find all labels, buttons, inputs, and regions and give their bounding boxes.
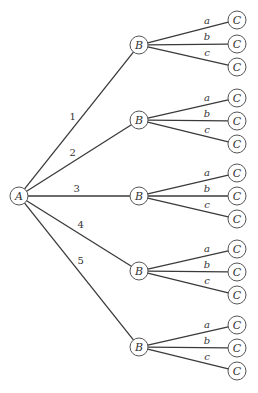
edge-b4-c1 — [148, 251, 228, 269]
edge-label-b5-c: c — [204, 351, 210, 362]
edge-label-b1-a: a — [204, 15, 210, 26]
edge-b4-c2 — [148, 271, 228, 272]
edge-b5-c1 — [148, 327, 228, 345]
node-c-3-1: C — [228, 164, 246, 182]
node-b5: B — [130, 338, 148, 356]
node-c-2-3: C — [228, 135, 246, 153]
node-c-2-3-label: C — [233, 138, 242, 151]
node-c-2-1-label: C — [233, 92, 242, 105]
edge-label-b1-c: c — [204, 47, 210, 58]
node-c-1-1-label: C — [233, 14, 242, 27]
edge-label-b3-c: c — [204, 199, 210, 210]
node-b4-label: B — [134, 265, 143, 278]
edge-label-b2-a: a — [204, 92, 210, 103]
edge-label-b3-a: a — [204, 167, 210, 178]
edge-label-4: 4 — [77, 219, 83, 230]
edge-b1-c1 — [148, 22, 229, 43]
edge-b4-c3 — [148, 273, 229, 293]
node-c-3-3: C — [228, 210, 246, 228]
root-node-a-label: A — [14, 190, 23, 203]
edge-label-2: 2 — [69, 147, 75, 158]
node-c-2-2-label: C — [233, 115, 242, 128]
edge-label-b3-b: b — [204, 183, 210, 194]
edge-b5-c3 — [148, 349, 229, 369]
node-c-5-1-label: C — [233, 319, 242, 332]
root-node-a: A — [10, 187, 28, 205]
node-b3-label: B — [134, 190, 143, 203]
edge-b3-c1 — [148, 175, 228, 194]
node-b2-label: B — [134, 114, 143, 127]
node-c-3-2: C — [228, 187, 246, 205]
edge-label-b5-b: b — [204, 335, 210, 346]
node-c-3-3-label: C — [233, 213, 242, 226]
node-c-5-1: C — [228, 316, 246, 334]
node-c-4-1: C — [228, 240, 246, 258]
edge-label-b4-a: a — [204, 243, 210, 254]
node-c-4-1-label: C — [233, 243, 242, 256]
edge-b3-c3 — [148, 198, 228, 217]
edge-b1-c2 — [148, 44, 228, 45]
node-b4: B — [130, 262, 148, 280]
tree-diagram: ABCCCBCCCBCCCBCCCBCCC 1abc2abc3abc4abc5a… — [0, 0, 258, 393]
node-c-3-2-label: C — [233, 190, 242, 203]
edge-label-5: 5 — [77, 255, 83, 266]
node-c-4-3-label: C — [233, 289, 242, 302]
edge-b2-c2 — [148, 120, 228, 121]
node-b5-label: B — [134, 341, 143, 354]
node-c-4-2-label: C — [233, 266, 242, 279]
edge-label-3: 3 — [73, 183, 79, 194]
node-c-5-2: C — [228, 339, 246, 357]
node-c-3-1-label: C — [233, 167, 242, 180]
node-c-2-2: C — [228, 112, 246, 130]
node-c-5-3-label: C — [233, 365, 242, 378]
edges-layer — [25, 22, 229, 369]
node-b2: B — [130, 111, 148, 129]
edge-label-b1-b: b — [204, 31, 210, 42]
node-b3: B — [130, 187, 148, 205]
node-c-4-3: C — [228, 286, 246, 304]
edge-b2-c1 — [148, 100, 228, 118]
edge-a-b1 — [25, 52, 134, 189]
node-b1-label: B — [134, 39, 143, 52]
edge-label-1: 1 — [69, 111, 75, 122]
edge-a-b2 — [27, 125, 132, 191]
edge-b5-c2 — [148, 347, 228, 348]
node-c-1-2-label: C — [233, 38, 242, 51]
edge-b2-c3 — [148, 122, 229, 142]
edge-label-b2-b: b — [204, 108, 210, 119]
edge-label-b4-b: b — [204, 259, 210, 270]
edge-label-b4-c: c — [204, 275, 210, 286]
edge-label-b5-a: a — [204, 319, 210, 330]
node-c-4-2: C — [228, 263, 246, 281]
node-c-1-1: C — [228, 11, 246, 29]
node-c-2-1: C — [228, 89, 246, 107]
node-c-1-2: C — [228, 35, 246, 53]
node-b1: B — [130, 36, 148, 54]
node-c-5-3: C — [228, 362, 246, 380]
edge-label-b2-c: c — [204, 124, 210, 135]
edge-b1-c3 — [148, 47, 228, 65]
node-c-1-3: C — [228, 58, 246, 76]
node-c-5-2-label: C — [233, 342, 242, 355]
node-c-1-3-label: C — [233, 61, 242, 74]
